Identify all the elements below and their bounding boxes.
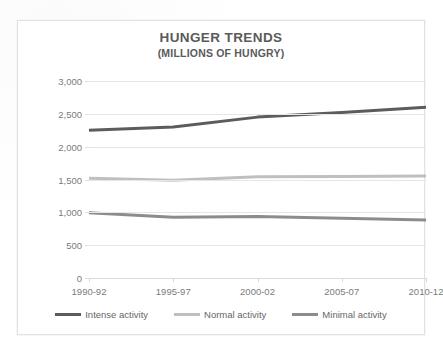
chart-subtitle: (MILLIONS OF HUNGRY) <box>18 46 424 61</box>
y-gridline <box>89 114 426 115</box>
legend-line-swatch-icon <box>174 313 200 316</box>
chart-title-block: HUNGER TRENDS (MILLIONS OF HUNGRY) <box>18 29 424 61</box>
x-axis-tick-label: 1995-97 <box>156 286 191 297</box>
y-axis-tick-label: 500 <box>66 240 82 251</box>
legend-item[interactable]: Normal activity <box>174 309 266 320</box>
chart-frame: HUNGER TRENDS (MILLIONS OF HUNGRY) 05001… <box>17 20 425 335</box>
series-line <box>89 107 426 130</box>
y-gridline <box>89 245 426 246</box>
legend-item[interactable]: Intense activity <box>55 309 148 320</box>
y-axis-tick-label: 0 <box>77 273 82 284</box>
x-tick-mark <box>173 278 174 282</box>
y-gridline <box>89 212 426 213</box>
x-axis-tick-label: 2010-12 <box>409 286 443 297</box>
chart-title: HUNGER TRENDS <box>18 29 424 46</box>
legend-label: Normal activity <box>204 309 266 320</box>
y-axis-tick-label: 3,000 <box>58 76 82 87</box>
legend-line-swatch-icon <box>292 313 318 316</box>
legend-line-swatch-icon <box>55 313 81 316</box>
x-tick-mark <box>89 278 90 282</box>
y-axis-tick-label: 2,500 <box>58 108 82 119</box>
x-axis-tick-label: 2005-07 <box>324 286 359 297</box>
x-axis-tick-label: 2000-02 <box>240 286 275 297</box>
y-axis-tick-label: 1,000 <box>58 207 82 218</box>
plot-area: 05001,0001,5002,0002,5003,0001990-921995… <box>89 81 426 278</box>
legend-label: Minimal activity <box>322 309 386 320</box>
y-axis-tick-label: 1,500 <box>58 174 82 185</box>
y-axis-tick-label: 2,000 <box>58 141 82 152</box>
y-tick-mark <box>85 180 89 181</box>
y-tick-mark <box>85 114 89 115</box>
x-tick-mark <box>342 278 343 282</box>
legend-label: Intense activity <box>85 309 148 320</box>
series-line <box>89 213 426 220</box>
y-gridline <box>89 81 426 82</box>
chart-legend: Intense activityNormal activityMinimal a… <box>18 309 424 320</box>
y-tick-mark <box>85 212 89 213</box>
y-tick-mark <box>85 81 89 82</box>
y-tick-mark <box>85 147 89 148</box>
y-tick-mark <box>85 245 89 246</box>
x-axis-tick-label: 1990-92 <box>72 286 107 297</box>
x-tick-mark <box>258 278 259 282</box>
legend-item[interactable]: Minimal activity <box>292 309 386 320</box>
y-gridline <box>89 180 426 181</box>
x-tick-mark <box>426 278 427 282</box>
y-gridline <box>89 147 426 148</box>
